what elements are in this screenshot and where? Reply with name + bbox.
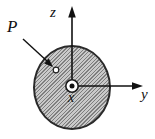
origin-dot xyxy=(70,84,75,89)
axes-overlay xyxy=(0,0,155,139)
disk-axes-diagram: z y x P xyxy=(0,0,155,139)
p-leader-line xyxy=(23,39,48,62)
z-axis-arrowhead xyxy=(68,6,76,18)
point-p-marker xyxy=(53,67,59,73)
y-axis-label: y xyxy=(141,87,148,102)
z-axis-label: z xyxy=(50,5,56,20)
point-p-label: P xyxy=(7,18,17,35)
x-axis-label: x xyxy=(68,91,74,105)
